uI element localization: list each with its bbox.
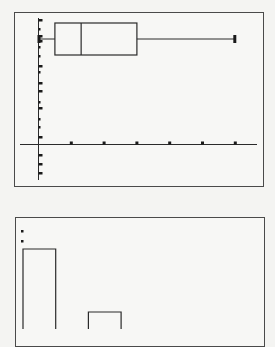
histogram — [23, 249, 121, 329]
indicator-dot — [21, 240, 24, 243]
histogram-bar — [23, 249, 56, 329]
indicator-dot — [21, 230, 24, 233]
busy-indicator-dots — [21, 230, 24, 243]
histogram-bar — [88, 312, 121, 329]
